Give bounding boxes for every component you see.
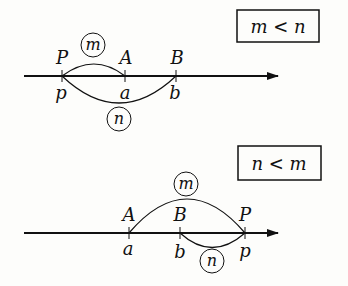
arc-label-m: m bbox=[85, 35, 100, 54]
label-upper-1: B bbox=[172, 204, 186, 225]
number-line-diagrams: m < n P A B p a b m n n < m A B P a b p bbox=[0, 0, 348, 286]
arc-label-n: n bbox=[207, 251, 217, 270]
arc-label-n: n bbox=[114, 109, 124, 128]
condition-text: m < n bbox=[250, 16, 305, 37]
label-lower-0: p bbox=[55, 82, 67, 103]
label-upper-2: B bbox=[169, 47, 183, 68]
label-lower-1: a bbox=[120, 82, 131, 103]
label-upper-0: A bbox=[121, 204, 136, 225]
label-upper-2: P bbox=[238, 204, 252, 225]
top-diagram: m < n P A B p a b m n bbox=[24, 10, 319, 131]
condition-text: n < m bbox=[251, 153, 306, 174]
label-lower-0: a bbox=[123, 238, 134, 259]
label-upper-0: P bbox=[55, 47, 69, 68]
label-upper-1: A bbox=[118, 47, 133, 68]
label-lower-2: b bbox=[169, 82, 181, 103]
arc-m bbox=[62, 64, 125, 76]
arc-label-m: m bbox=[178, 174, 193, 193]
label-lower-2: p bbox=[239, 240, 251, 261]
label-lower-1: b bbox=[174, 241, 186, 262]
bottom-diagram: n < m A B P a b p m n bbox=[24, 146, 321, 273]
arc-n bbox=[180, 233, 245, 248]
arc-m bbox=[129, 199, 245, 233]
